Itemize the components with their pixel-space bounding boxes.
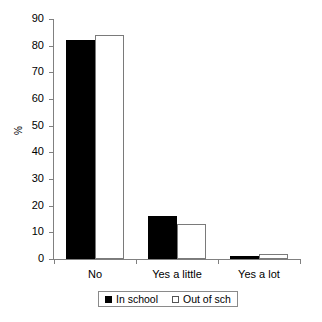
chart-legend: In schoolOut of sch xyxy=(98,291,238,307)
x-axis-tick xyxy=(136,259,137,264)
bar-no-in-school xyxy=(66,40,95,259)
y-axis-tick-label: 80 xyxy=(0,39,44,52)
x-axis-label-no: No xyxy=(88,268,102,280)
y-axis-tick-label: 0 xyxy=(0,252,44,265)
bar-yes-a-little-in-school xyxy=(148,216,177,259)
bar-no-out-of-sch xyxy=(95,35,124,259)
legend-label: In school xyxy=(116,293,158,305)
plot-area xyxy=(54,19,300,259)
x-axis-label-yes-a-lot: Yes a lot xyxy=(238,268,280,280)
bar-yes-a-lot-out-of-sch xyxy=(259,254,288,259)
x-axis-label-yes-a-little: Yes a little xyxy=(152,268,202,280)
bar-chart: % 0102030405060708090 NoYes a littleYes … xyxy=(0,0,322,322)
x-axis-tick xyxy=(54,259,55,264)
x-axis-line xyxy=(53,259,301,260)
y-axis-tick-label: 20 xyxy=(0,199,44,212)
y-axis-tick-label: 50 xyxy=(0,119,44,132)
legend-entry-in-school: In school xyxy=(105,293,158,305)
legend-label: Out of sch xyxy=(183,293,231,305)
y-axis-tick-label: 70 xyxy=(0,65,44,78)
bar-yes-a-little-out-of-sch xyxy=(177,224,206,259)
x-axis-tick xyxy=(300,259,301,264)
y-axis-tick-label: 40 xyxy=(0,145,44,158)
legend-swatch-icon xyxy=(172,296,179,303)
y-axis-tick-label: 60 xyxy=(0,92,44,105)
legend-entry-out-of-sch: Out of sch xyxy=(172,293,231,305)
x-axis-tick xyxy=(218,259,219,264)
y-axis-tick-label: 10 xyxy=(0,225,44,238)
y-axis-tick-label: 30 xyxy=(0,172,44,185)
y-axis-tick-label: 90 xyxy=(0,12,44,25)
legend-swatch-icon xyxy=(105,296,112,303)
bar-yes-a-lot-in-school xyxy=(230,256,259,259)
